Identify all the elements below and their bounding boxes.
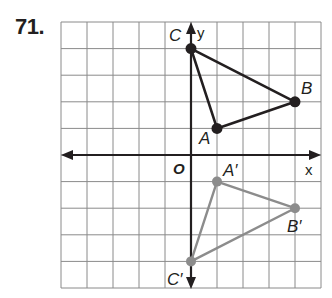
origin-label: O xyxy=(173,160,185,177)
point-b-prime xyxy=(290,203,300,213)
label-c-prime: C′ xyxy=(167,270,183,289)
coordinate-plane: y x O A′B′C′ ABC xyxy=(0,0,332,298)
label-b-prime: B′ xyxy=(287,217,302,236)
label-b: B xyxy=(301,79,312,98)
point-a xyxy=(212,123,223,134)
point-c-prime xyxy=(186,256,196,266)
point-a-prime xyxy=(212,177,222,187)
label-a-prime: A′ xyxy=(222,161,238,180)
point-c xyxy=(186,43,197,54)
label-a: A xyxy=(198,129,210,148)
x-axis-left-arrow-icon xyxy=(61,150,73,160)
label-c: C xyxy=(169,26,182,45)
y-axis-down-arrow-icon xyxy=(186,277,196,289)
axes: y x O xyxy=(61,22,321,289)
point-b xyxy=(290,96,301,107)
x-axis-label: x xyxy=(305,161,313,178)
y-axis-up-arrow-icon xyxy=(186,22,196,34)
image-triangle: A′B′C′ xyxy=(167,161,302,290)
x-axis-right-arrow-icon xyxy=(309,150,321,160)
y-axis-label: y xyxy=(197,24,205,41)
